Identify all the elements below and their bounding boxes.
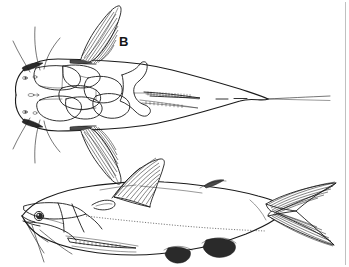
panel-label-b: B: [119, 35, 129, 48]
figure-root: B: [0, 0, 349, 267]
catfish-illustration: [0, 0, 349, 267]
lateral-eye-pupil: [36, 213, 42, 219]
